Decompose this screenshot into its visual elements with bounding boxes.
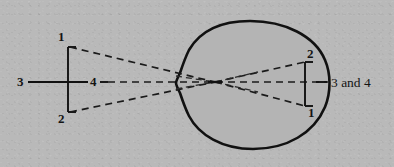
label-image-point-3-and-4: 3 and 4 [331,76,371,90]
label-object-point-1: 1 [58,30,65,43]
label-object-point-4: 4 [90,75,97,88]
label-image-point-1: 1 [308,106,315,119]
label-object-point-3: 3 [17,75,24,88]
label-object-point-2: 2 [58,112,65,125]
label-image-point-2: 2 [307,47,314,60]
ray-diagram-figure: 1 2 3 4 2 1 3 and 4 [0,0,394,167]
